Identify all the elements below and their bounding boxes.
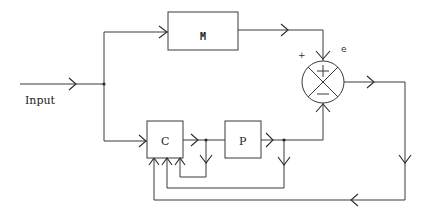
block-diagram: Input M + e C P <box>0 0 431 220</box>
block-m-label: M <box>200 31 206 42</box>
error-label: e <box>341 44 347 54</box>
input-label: Input <box>25 94 56 107</box>
block-p-label: P <box>239 135 247 148</box>
m-to-sum-line <box>238 30 323 61</box>
plus-label: + <box>298 50 306 60</box>
error-output-line <box>344 82 405 200</box>
block-c-label: C <box>161 135 169 148</box>
summing-junction <box>302 61 344 103</box>
outer-feedback-line <box>154 158 405 200</box>
p-to-sum-line <box>261 103 323 140</box>
